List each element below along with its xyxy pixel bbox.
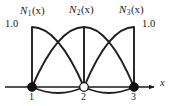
shape-function-figure: N1(x) N2(x) N3(x) 1.0 1.0 1 2 3 x bbox=[0, 0, 173, 106]
x-tick-label-3: 3 bbox=[131, 92, 136, 102]
curve-label-n2-argument: (x) bbox=[81, 3, 94, 15]
curve-label-n2: N2(x) bbox=[69, 4, 94, 16]
node-marker-1 bbox=[28, 83, 37, 92]
node-marker-3 bbox=[130, 83, 139, 92]
curve-label-n3-argument: (x) bbox=[131, 3, 144, 15]
x-tick-label-2: 2 bbox=[81, 92, 86, 102]
node-marker-2 bbox=[80, 83, 89, 92]
x-tick-label-1: 1 bbox=[29, 92, 34, 102]
curve-label-n1-argument: (x) bbox=[32, 4, 45, 16]
curve-n2 bbox=[32, 27, 134, 87]
value-label-left: 1.0 bbox=[5, 19, 18, 30]
curve-label-n1: N1(x) bbox=[20, 5, 45, 17]
curve-label-n3: N3(x) bbox=[119, 4, 144, 16]
x-axis-label: x bbox=[160, 78, 165, 89]
value-label-right: 1.0 bbox=[142, 19, 155, 30]
